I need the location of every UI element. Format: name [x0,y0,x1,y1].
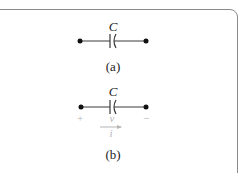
capacitor-label-a: C [109,20,118,33]
circuit-diagram [0,0,243,173]
caption-a: (a) [106,60,120,73]
voltage-plus-sign: + [77,113,83,124]
voltage-minus-sign: − [143,113,149,124]
terminal-right-b [144,105,149,110]
terminal-right-a [144,39,149,44]
current-label: i [109,128,112,139]
capacitor-label-b: C [109,85,118,98]
terminal-left-a [78,39,83,44]
capacitor-circuit-a [78,34,149,48]
caption-b: (b) [105,148,120,161]
terminal-left-b [79,105,84,110]
voltage-label: v [110,113,115,124]
